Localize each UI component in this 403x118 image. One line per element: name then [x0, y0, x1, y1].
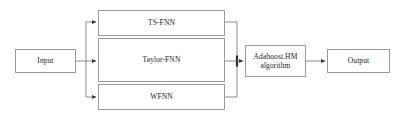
node-ts-fnn-label: TS-FNN — [146, 18, 177, 27]
node-output-label: Output — [346, 56, 371, 65]
node-output[interactable]: Output — [327, 49, 390, 73]
node-adaboost-algorithm[interactable]: Adaboost.HM algorithm — [245, 45, 306, 77]
diagram-canvas: Input TS-FNN Taylor-FNN WFNN Adaboost.HM… — [0, 0, 403, 118]
node-ts-fnn[interactable]: TS-FNN — [98, 10, 225, 36]
node-taylor-fnn-label: Taylor-FNN — [141, 55, 183, 64]
node-taylor-fnn[interactable]: Taylor-FNN — [98, 38, 225, 82]
node-input[interactable]: Input — [15, 49, 76, 73]
node-adaboost-algorithm-label: Adaboost.HM algorithm — [252, 52, 300, 71]
node-wfnn-label: WFNN — [148, 92, 174, 101]
node-input-label: Input — [35, 56, 55, 65]
node-wfnn[interactable]: WFNN — [98, 84, 225, 110]
